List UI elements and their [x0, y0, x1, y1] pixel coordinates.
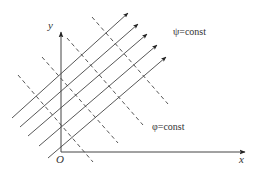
streamlines [12, 13, 166, 158]
streamline-5 [48, 57, 166, 158]
equipotential-label: φ=const [152, 121, 185, 132]
y-axis-label: y [47, 19, 53, 31]
equipotential-lines [18, 17, 168, 162]
origin-label: O [56, 153, 64, 165]
flow-net-diagram: y O x ψ=const φ=const [0, 0, 256, 174]
streamline-label: ψ=const [173, 26, 206, 37]
x-axis-label: x [238, 153, 244, 165]
